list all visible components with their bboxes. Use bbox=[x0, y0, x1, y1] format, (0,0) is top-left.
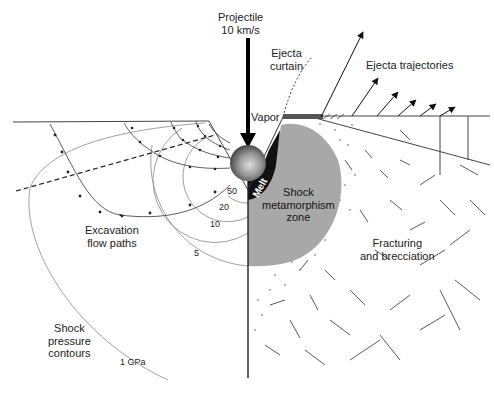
ejecta-curtain-label: Ejecta curtain bbox=[270, 47, 303, 72]
contour-label-5: 5 bbox=[194, 248, 199, 258]
vapor-layer bbox=[283, 114, 323, 119]
vapor-label: Vapor bbox=[251, 111, 280, 124]
fracturing-label: Fracturing and brecciation bbox=[360, 237, 435, 262]
contour-label-1gpa: 1 GPa bbox=[120, 357, 146, 367]
excavation-flow-paths bbox=[50, 121, 230, 217]
contour-label-50: 50 bbox=[227, 186, 237, 196]
projectile-ball bbox=[230, 145, 266, 181]
projectile-label: Projectile 10 km/s bbox=[218, 11, 263, 36]
contour-label-20: 20 bbox=[219, 202, 229, 212]
ejecta-trajectories bbox=[321, 32, 455, 117]
left-ground-surface bbox=[13, 121, 248, 190]
excavation-label: Excavation flow paths bbox=[85, 224, 139, 249]
ejecta-trajectories-label: Ejecta trajectories bbox=[366, 59, 453, 72]
vapor-hatching bbox=[323, 114, 344, 119]
contour-label-10: 10 bbox=[210, 219, 220, 229]
flow-arrow-ticks bbox=[54, 125, 222, 218]
shock-contours-label: Shock pressure contours bbox=[48, 322, 91, 360]
shock-zone-label: Shock metamorphism zone bbox=[262, 186, 335, 224]
